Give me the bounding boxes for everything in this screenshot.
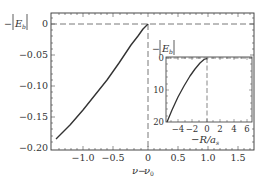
svg-text:−R/: −R/ — [191, 134, 212, 145]
chart-canvas: 0 −0.05 −0.10 −0.15 −0.20 −1.0 −0.5 0 0.… — [0, 0, 269, 181]
svg-text:4: 4 — [231, 124, 236, 134]
svg-text:−1.0: −1.0 — [71, 152, 94, 163]
svg-text:−0.10: −0.10 — [19, 80, 48, 91]
main-x-axis-title: ν − ν 0 — [132, 165, 154, 177]
svg-text:−2: −2 — [186, 124, 199, 134]
svg-text:20: 20 — [153, 117, 164, 127]
svg-text:−0.05: −0.05 — [19, 49, 48, 60]
svg-text:b: b — [169, 48, 173, 55]
svg-text:1.0: 1.0 — [200, 152, 215, 163]
svg-text:−0.5: −0.5 — [101, 152, 124, 163]
inset-plot-frame — [166, 57, 252, 122]
inset-x-tick-labels: −4 −2 0 2 4 6 — [172, 124, 250, 134]
svg-text:10: 10 — [153, 85, 164, 95]
inset-x-axis-title: −R/ a s — [191, 134, 219, 146]
svg-text:0: 0 — [159, 53, 164, 63]
inset-y-tick-labels: 0 10 20 — [153, 53, 164, 127]
svg-text:0: 0 — [42, 18, 48, 29]
svg-text:−: − — [152, 43, 160, 54]
svg-text:−0.20: −0.20 — [19, 142, 48, 153]
svg-text:s: s — [216, 139, 219, 146]
svg-text:b: b — [22, 23, 26, 30]
main-x-tick-labels: −1.0 −0.5 0 0.5 1.0 1.5 — [71, 152, 245, 163]
svg-text:2: 2 — [217, 124, 222, 134]
svg-text:−4: −4 — [172, 124, 185, 134]
svg-text:6: 6 — [244, 124, 249, 134]
inset-y-axis-title: − E b — [152, 40, 174, 55]
main-y-axis-title: − E b — [4, 14, 27, 30]
main-y-tick-labels: 0 −0.05 −0.10 −0.15 −0.20 — [19, 18, 48, 153]
svg-text:0.5: 0.5 — [170, 152, 185, 163]
svg-text:−: − — [4, 18, 12, 29]
svg-text:0: 0 — [150, 170, 154, 177]
svg-text:1.5: 1.5 — [230, 152, 245, 163]
svg-text:0: 0 — [204, 124, 209, 134]
svg-text:0: 0 — [145, 152, 151, 163]
svg-text:−0.15: −0.15 — [19, 111, 48, 122]
main-curve — [56, 24, 148, 139]
